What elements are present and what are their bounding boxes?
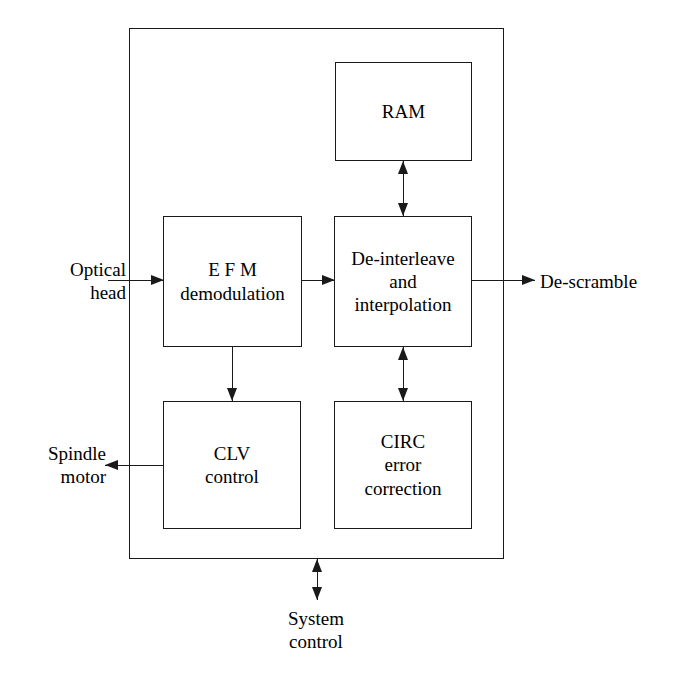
block-efm-demodulation-label: E F M demodulation (176, 258, 288, 304)
block-efm-demodulation[interactable]: E F M demodulation (163, 216, 302, 347)
connector-system-control-arrowhead-down (312, 587, 322, 600)
block-deinterleave-interpolation-label: De-interleave and interpolation (347, 247, 458, 317)
connector-efm-to-deinterleave-arrowhead (322, 275, 335, 285)
connector-efm-to-clv-arrowhead (227, 388, 237, 401)
block-ram-label: RAM (378, 100, 429, 123)
connector-ram-to-deinterleave-arrowhead-down (398, 203, 408, 216)
label-spindle-motor: Spindle motor (6, 442, 106, 488)
block-circ-error-correction[interactable]: CIRC error correction (334, 401, 472, 529)
connector-clv-to-spindle-motor-arrowhead (105, 460, 118, 470)
connector-optical-head-to-efm-arrowhead (151, 275, 164, 285)
block-diagram-canvas: RAM E F M demodulation De-interleave and… (0, 0, 685, 682)
connector-ram-to-deinterleave-arrowhead-up (398, 161, 408, 174)
block-clv-control[interactable]: CLV control (163, 401, 301, 529)
block-clv-control-label: CLV control (201, 442, 263, 488)
block-deinterleave-interpolation[interactable]: De-interleave and interpolation (334, 216, 472, 347)
connector-deinterleave-to-circ-arrowhead-down (398, 388, 408, 401)
connector-system-control-arrowhead-up (312, 559, 322, 572)
connector-deinterleave-to-descramble-arrowhead (522, 275, 535, 285)
connector-deinterleave-to-circ-arrowhead-up (398, 347, 408, 360)
label-system-control: System control (246, 607, 386, 653)
label-optical-head: Optical head (14, 258, 126, 304)
block-ram[interactable]: RAM (335, 62, 472, 161)
label-de-scramble: De-scramble (540, 270, 680, 293)
block-circ-error-correction-label: CIRC error correction (360, 430, 445, 500)
